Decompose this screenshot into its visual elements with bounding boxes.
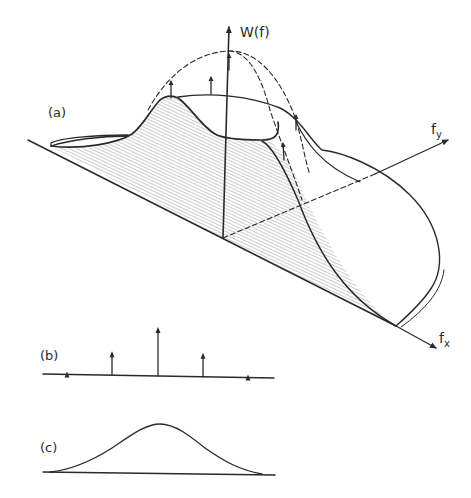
fy-sub: y xyxy=(436,129,442,140)
w-axis-label: W(f) xyxy=(240,24,270,40)
panel-c: (c) xyxy=(40,424,275,475)
fx-axis-arrow xyxy=(396,326,436,348)
panel-label-c: (c) xyxy=(40,440,57,455)
panel-label-a: (a) xyxy=(48,105,66,120)
fy-axis-label: fy xyxy=(431,121,442,140)
back-rim-double xyxy=(401,270,444,327)
line-spectrum-impulses xyxy=(65,327,251,381)
impulse-arrowhead-icon xyxy=(110,351,115,357)
continuous-spectrum-curve xyxy=(50,424,262,474)
panel-label-b: (b) xyxy=(40,348,58,363)
panel-a: (a) W(f) fy fx xyxy=(28,24,450,349)
impulse-arrowhead-icon xyxy=(156,327,161,333)
fy-axis-solid xyxy=(375,140,448,174)
panel-b: (b) xyxy=(40,327,274,381)
fx-axis-label: fx xyxy=(439,330,450,349)
fx-sub: x xyxy=(444,338,450,349)
continuous-spectrum-baseline xyxy=(43,472,275,475)
impulse-arrowhead-icon xyxy=(201,353,206,359)
spectrum-figure: (a) W(f) fy fx (b) (c) xyxy=(0,0,471,498)
